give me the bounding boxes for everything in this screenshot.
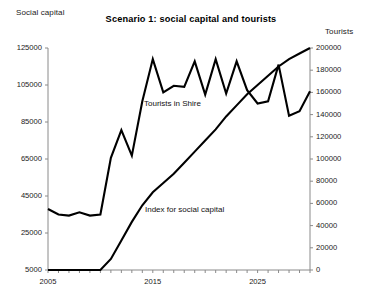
- left-axis-tick-label: 125000: [0, 43, 42, 52]
- right-axis-tick-label: 40000: [316, 221, 337, 230]
- left-axis-tick-label: 105000: [0, 80, 42, 89]
- right-axis-tick-label: 120000: [316, 132, 341, 141]
- right-axis-tick-label: 140000: [316, 110, 341, 119]
- left-axis-tick-label: 5000: [0, 265, 42, 274]
- chart-figure: Social capital Tourists Scenario 1: soci…: [0, 0, 382, 299]
- x-axis-tick-label: 2015: [133, 277, 173, 286]
- right-axis-tick-label: 0: [316, 265, 320, 274]
- right-axis-tick-label: 20000: [316, 243, 337, 252]
- right-axis-tick-label: 100000: [316, 154, 341, 163]
- right-axis-tick-label: 200000: [316, 43, 341, 52]
- left-axis-tick-label: 65000: [0, 154, 42, 163]
- series-line-social-capital: [48, 48, 310, 270]
- series-line-tourists: [48, 59, 310, 216]
- left-axis-tick-label: 25000: [0, 228, 42, 237]
- x-axis-tick-label: 2005: [28, 277, 68, 286]
- right-axis-tick-label: 60000: [316, 198, 337, 207]
- x-axis-tick-label: 2025: [238, 277, 278, 286]
- series-group: [48, 48, 310, 270]
- right-axis-tick-label: 80000: [316, 176, 337, 185]
- right-axis-tick-label: 180000: [316, 65, 341, 74]
- left-axis-tick-label: 85000: [0, 117, 42, 126]
- right-axis-tick-label: 160000: [316, 87, 341, 96]
- left-axis-tick-label: 45000: [0, 191, 42, 200]
